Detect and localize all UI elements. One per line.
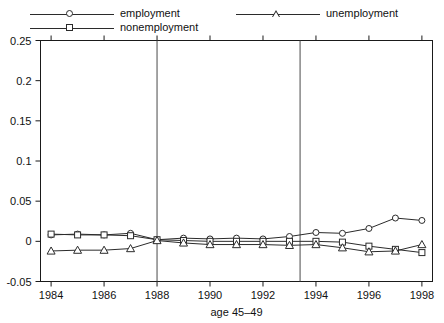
data-point-employment xyxy=(339,230,345,236)
data-point-employment xyxy=(313,229,319,235)
y-tick-label: 0.05 xyxy=(10,195,31,207)
chart-figure: employment nonemployment unemployment 19… xyxy=(0,0,444,323)
data-point-employment xyxy=(392,215,398,221)
chart-plot-area: 19841986198819901992199419961998-0.0500.… xyxy=(0,0,444,323)
x-tick-label: 1992 xyxy=(251,289,275,301)
x-tick-label: 1988 xyxy=(145,289,169,301)
data-point-nonemployment xyxy=(419,250,425,256)
x-tick-label: 1984 xyxy=(39,289,63,301)
y-tick-label: 0.15 xyxy=(10,115,31,127)
x-tick-label: 1998 xyxy=(410,289,434,301)
y-tick-label: 0.2 xyxy=(16,75,31,87)
data-point-employment xyxy=(366,225,372,231)
y-tick-label: -0.05 xyxy=(6,276,31,288)
y-tick-label: 0.25 xyxy=(10,35,31,47)
x-tick-label: 1990 xyxy=(198,289,222,301)
y-tick-label: 0.1 xyxy=(16,155,31,167)
y-tick-label: 0 xyxy=(25,235,31,247)
data-point-nonemployment xyxy=(128,233,134,239)
x-tick-label: 1996 xyxy=(357,289,381,301)
x-axis-title: age 45–49 xyxy=(211,306,263,318)
x-tick-label: 1994 xyxy=(304,289,328,301)
data-point-nonemployment xyxy=(48,231,54,237)
data-point-nonemployment xyxy=(101,232,107,238)
data-point-nonemployment xyxy=(75,232,81,238)
x-tick-label: 1986 xyxy=(92,289,116,301)
data-point-employment xyxy=(419,217,425,223)
data-point-unemployment xyxy=(418,241,426,248)
